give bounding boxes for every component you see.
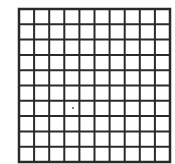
grid-dot: [72, 107, 74, 109]
grid-diagram: [0, 0, 175, 164]
grid-lines: [19, 9, 170, 162]
